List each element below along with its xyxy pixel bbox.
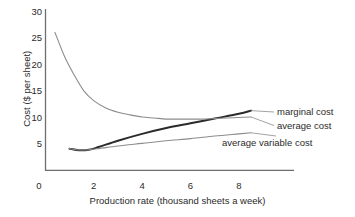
- series-group: [55, 32, 276, 150]
- x-axis-title: Production rate (thousand sheets a week): [0, 196, 355, 206]
- series-line-average-cost: [55, 32, 251, 119]
- x-tick-label: 6: [188, 181, 193, 191]
- chart-figure: 30 25 20 15 10 5 0 2 4 6 8 Production ra…: [0, 0, 355, 217]
- x-tick-label: 0: [36, 181, 41, 191]
- x-tick-label: 8: [236, 181, 241, 191]
- x-tick-label: 2: [91, 181, 96, 191]
- series-label-average-variable-cost: average variable cost: [222, 138, 312, 148]
- leader-line-0: [251, 111, 274, 112]
- series-label-marginal-cost: marginal cost: [277, 107, 334, 117]
- y-axis-title: Cost ($ per sheet): [22, 9, 32, 169]
- leader-line-2: [251, 133, 276, 136]
- leader-line-1: [251, 117, 274, 126]
- x-tick-label: 4: [139, 181, 144, 191]
- series-label-average-cost: average cost: [277, 121, 331, 131]
